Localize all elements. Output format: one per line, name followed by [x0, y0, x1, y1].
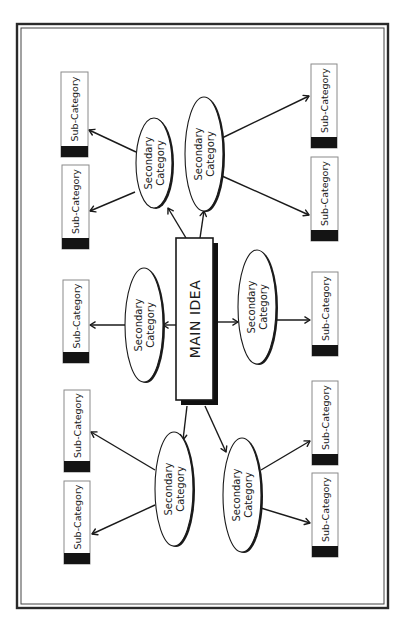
secondary-category-label-line1: Secondary	[133, 298, 144, 351]
sub-category-box: Sub-Category	[311, 157, 338, 241]
secondary-category-ellipse: SecondaryCategory	[125, 268, 165, 383]
sub-category-label: Sub-Category	[71, 283, 82, 348]
arrow-sec-5-to-sub-4	[91, 432, 155, 470]
sub-category-box: Sub-Category	[63, 280, 89, 363]
sub-category-box: Sub-Category	[64, 481, 90, 564]
sub-category-box: Sub-Category	[62, 165, 89, 249]
sub-category-color-bar	[311, 137, 337, 148]
secondary-category-label-line1: Secondary	[231, 468, 242, 521]
arrow-main-to-sec-2	[200, 211, 206, 238]
sub-category-label: Sub-Category	[70, 169, 81, 234]
sub-category-box: Sub-Category	[312, 272, 338, 356]
arrow-main-to-sec-4	[218, 319, 238, 325]
sub-category-box: Sub-Category	[311, 64, 337, 148]
arrow-sec-1-to-sub-1	[89, 129, 136, 152]
sub-category-label: Sub-Category	[320, 276, 331, 341]
sub-category-label: Sub-Category	[72, 484, 83, 549]
arrow-sec-6-to-sub-9	[261, 441, 310, 470]
secondary-category-ellipse: SecondaryCategory	[155, 432, 195, 547]
secondary-category-label-line2: Category	[205, 131, 216, 177]
mind-map-diagram: Sub-CategorySub-CategorySub-CategorySub-…	[0, 0, 405, 626]
arrow-sec-3-to-sub-3	[90, 322, 125, 328]
secondary-category-ellipse: SecondaryCategory	[185, 97, 225, 212]
sub-category-color-bar	[61, 146, 88, 157]
sub-category-label: Sub-Category	[320, 477, 331, 542]
sub-category-color-bar	[312, 546, 338, 557]
sub-category-label: Sub-Category	[319, 68, 330, 133]
arrow-sec-5-to-sub-5	[92, 505, 155, 535]
arrow-sec-1-to-sub-2	[90, 192, 135, 212]
sub-category-color-bar	[312, 345, 338, 356]
sub-category-box: Sub-Category	[312, 381, 338, 465]
main-idea-node: MAIN IDEA	[176, 238, 218, 405]
sub-category-label: Sub-Category	[69, 76, 80, 141]
secondary-category-label-line1: Secondary	[246, 280, 257, 333]
secondary-category-label-line2: Category	[258, 284, 269, 330]
sub-category-label: Sub-Category	[72, 393, 83, 458]
secondary-category-ellipse: SecondaryCategory	[223, 438, 263, 553]
sub-category-color-bar	[64, 461, 90, 472]
arrow-sec-2-to-sub-7	[222, 176, 309, 216]
sub-category-box: Sub-Category	[61, 72, 88, 157]
main-idea-label: MAIN IDEA	[187, 280, 203, 359]
arrow-sec-6-to-sub-10	[261, 508, 310, 525]
secondary-category-label-line2: Category	[155, 140, 166, 186]
secondary-category-ellipse: SecondaryCategory	[238, 250, 278, 365]
secondary-category-label-line1: Secondary	[143, 136, 154, 189]
secondary-category-label-line2: Category	[145, 302, 156, 348]
arrow-main-to-sec-1	[168, 208, 186, 238]
sub-category-color-bar	[63, 352, 89, 363]
arrow-sec-4-to-sub-8	[276, 317, 310, 323]
sub-category-label: Sub-Category	[319, 161, 330, 226]
secondary-category-label-line1: Secondary	[163, 462, 174, 515]
sub-category-color-bar	[312, 454, 338, 465]
sub-category-color-bar	[64, 553, 90, 564]
secondary-category-ellipse: SecondaryCategory	[136, 118, 174, 209]
sub-category-color-bar	[62, 238, 89, 249]
secondary-category-label-line2: Category	[175, 466, 186, 512]
sub-category-box: Sub-Category	[64, 390, 90, 472]
sub-category-label: Sub-Category	[320, 385, 331, 450]
arrow-main-to-sec-6	[205, 406, 227, 452]
secondary-category-label-line1: Secondary	[193, 127, 204, 180]
arrow-sec-2-to-sub-6	[222, 95, 309, 138]
secondary-category-label-line2: Category	[243, 472, 254, 518]
sub-category-color-bar	[311, 230, 338, 241]
arrow-main-to-sec-5	[180, 406, 187, 440]
sub-category-box: Sub-Category	[312, 473, 338, 557]
